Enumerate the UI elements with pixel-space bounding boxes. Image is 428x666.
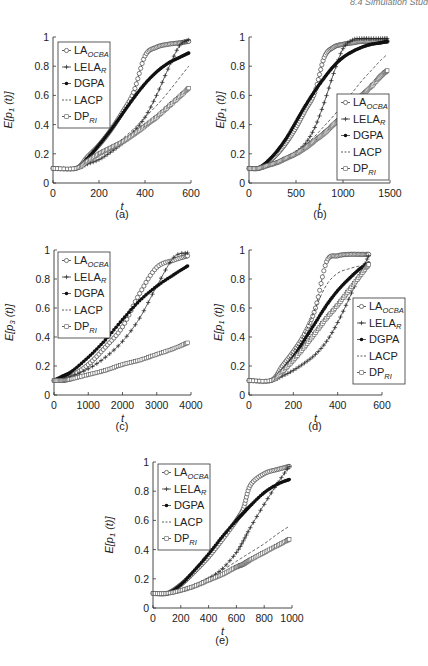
- panel-d: 00.20.40.60.810200400600E[p1 (t)]t(d)LAO…: [212, 244, 405, 432]
- y-tick-label: 1: [239, 31, 245, 43]
- square-marker-icon: [187, 86, 191, 90]
- x-tick-label: 4000: [179, 399, 203, 411]
- plus-marker-icon: [251, 520, 255, 524]
- plus-marker-icon: [324, 93, 328, 97]
- plus-marker-icon: [347, 297, 351, 301]
- filled-circle-marker-icon: [385, 40, 389, 44]
- circle-marker-icon: [64, 48, 68, 52]
- x-tick-label: 0: [150, 612, 156, 624]
- y-tick-label: 0.4: [134, 544, 149, 556]
- x-tick-label: 400: [200, 612, 218, 624]
- legend: LAOCBALELARDGPALACPDPRI: [353, 298, 405, 384]
- square-marker-icon: [385, 69, 389, 73]
- panel-e: 00.20.40.60.8102004006008001000E[p1 (t)]…: [103, 456, 304, 646]
- circle-marker-icon: [322, 269, 326, 273]
- x-tick-label: 1500: [378, 187, 402, 199]
- x-tick-label: 200: [285, 399, 303, 411]
- x-tick-label: 800: [255, 612, 273, 624]
- series-lela-r: [247, 254, 371, 383]
- plus-marker-icon: [151, 99, 155, 103]
- x-tick-label: 1000: [331, 187, 355, 199]
- y-tick-label: 0: [239, 389, 245, 401]
- plus-marker-icon: [160, 80, 164, 84]
- legend: LAOCBALELARDGPALACPDPRI: [337, 94, 389, 180]
- y-axis-label: E[p3 (t)]: [3, 303, 17, 341]
- x-tick-label: 200: [90, 187, 108, 199]
- plus-marker-icon: [331, 71, 335, 75]
- y-tick-label: 0.2: [35, 360, 50, 372]
- circle-marker-icon: [64, 258, 68, 262]
- filled-circle-marker-icon: [165, 504, 169, 508]
- plus-marker-icon: [154, 93, 158, 97]
- plus-marker-icon: [330, 330, 334, 334]
- plus-marker-icon: [149, 105, 153, 109]
- series-dp-ri: [52, 341, 189, 382]
- legend: LAOCBALELARDGPALACPDPRI: [58, 252, 110, 338]
- plus-marker-icon: [315, 120, 319, 124]
- square-marker-icon: [367, 263, 371, 267]
- plus-marker-icon: [338, 51, 342, 55]
- y-tick-label: 0.8: [230, 60, 245, 72]
- square-marker-icon: [186, 341, 190, 345]
- circle-marker-icon: [136, 77, 140, 81]
- plus-marker-icon: [166, 67, 170, 71]
- y-tick-label: 1: [43, 31, 49, 43]
- plus-marker-icon: [258, 508, 262, 512]
- svg-text:LACP: LACP: [74, 94, 103, 106]
- plus-marker-icon: [163, 73, 167, 77]
- y-tick-label: 1: [143, 456, 149, 468]
- panel-caption: (a): [115, 208, 128, 220]
- svg-text:DGPA: DGPA: [174, 499, 205, 511]
- filled-circle-marker-icon: [65, 292, 69, 296]
- plus-marker-icon: [137, 316, 141, 320]
- y-tick-label: 0: [43, 177, 49, 189]
- plus-marker-icon: [269, 491, 273, 495]
- y-tick-label: 0.6: [35, 302, 50, 314]
- circle-marker-icon: [134, 82, 138, 86]
- circle-marker-icon: [316, 295, 320, 299]
- y-tick-label: 0.6: [230, 89, 245, 101]
- plus-marker-icon: [335, 320, 339, 324]
- plus-marker-icon: [308, 134, 312, 138]
- circle-marker-icon: [343, 100, 347, 104]
- y-axis-label: E[p1 (t)]: [2, 90, 16, 128]
- x-tick-label: 400: [136, 187, 154, 199]
- plus-marker-icon: [329, 78, 333, 82]
- x-tick-label: 0: [246, 399, 252, 411]
- y-tick-label: 0.4: [230, 119, 245, 131]
- square-marker-icon: [62, 167, 66, 171]
- y-tick-label: 0: [239, 177, 245, 189]
- circle-marker-icon: [319, 281, 323, 285]
- plus-marker-icon: [341, 46, 345, 50]
- y-axis-label: E[p1 (t)]: [103, 515, 117, 553]
- circle-marker-icon: [313, 306, 317, 310]
- filled-circle-marker-icon: [65, 82, 69, 86]
- filled-circle-marker-icon: [344, 134, 348, 138]
- y-axis-label: E[p1 (t)]: [212, 303, 226, 341]
- x-tick-label: 0: [51, 399, 57, 411]
- plus-marker-icon: [341, 309, 345, 313]
- plus-marker-icon: [313, 125, 317, 129]
- plus-marker-icon: [320, 107, 324, 111]
- x-tick-label: 1000: [280, 612, 304, 624]
- x-tick-label: 3000: [145, 399, 169, 411]
- panel-c: 00.20.40.60.8101000200030004000E[p3 (t)]…: [3, 244, 203, 432]
- y-tick-label: 0.2: [230, 148, 245, 160]
- circle-marker-icon: [140, 61, 144, 65]
- filled-circle-marker-icon: [360, 338, 364, 342]
- x-tick-label: 400: [329, 399, 347, 411]
- circle-marker-icon: [139, 66, 143, 70]
- x-tick-label: 2000: [111, 399, 135, 411]
- plus-marker-icon: [310, 130, 314, 134]
- circle-marker-icon: [316, 77, 320, 81]
- plus-marker-icon: [317, 114, 321, 118]
- plus-marker-icon: [338, 315, 342, 319]
- plus-marker-icon: [344, 303, 348, 307]
- circle-marker-icon: [319, 67, 323, 71]
- svg-text:LACP: LACP: [369, 350, 398, 362]
- y-tick-label: 0.6: [134, 514, 149, 526]
- plus-marker-icon: [327, 86, 331, 90]
- filled-circle-marker-icon: [186, 264, 190, 268]
- y-tick-label: 0.2: [134, 573, 149, 585]
- plus-marker-icon: [266, 496, 270, 500]
